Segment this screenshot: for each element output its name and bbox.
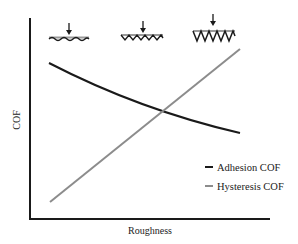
legend-item-adhesion: Adhesion COF	[205, 162, 280, 173]
surface-icon-rough	[193, 14, 235, 41]
surface-icon-smooth	[49, 23, 89, 41]
legend: Adhesion COF Hysteresis COF	[205, 162, 284, 192]
x-axis-label: Roughness	[128, 225, 172, 236]
y-axis-label: COF	[11, 110, 22, 130]
legend-label-hysteresis: Hysteresis COF	[217, 181, 284, 192]
adhesion-cof-line	[49, 63, 240, 133]
cof-vs-roughness-chart: Adhesion COF Hysteresis COF Roughness CO…	[0, 0, 298, 244]
legend-item-hysteresis: Hysteresis COF	[205, 181, 284, 192]
legend-label-adhesion: Adhesion COF	[217, 162, 280, 173]
surface-icon-medium	[121, 21, 163, 40]
